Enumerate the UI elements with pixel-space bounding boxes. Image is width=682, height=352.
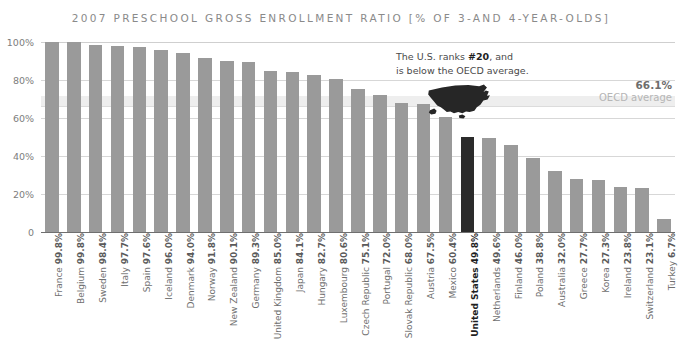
x-label-value: 99.8%: [76, 233, 86, 264]
x-label-finland: Finland 46.0%: [515, 233, 524, 299]
bar-switzerland[interactable]: [635, 188, 649, 232]
x-label-country: Japan: [295, 264, 305, 292]
x-label-france: France 99.8%: [55, 233, 64, 297]
x-label-country: Portugal: [382, 264, 392, 304]
x-label-value: 85.0%: [273, 233, 283, 264]
bar-germany[interactable]: [242, 62, 256, 232]
bar-new-zealand[interactable]: [220, 61, 234, 232]
x-label-value: 75.1%: [361, 233, 371, 264]
chart-root: 2007 PRESCHOOL GROSS ENROLLMENT RATIO [%…: [0, 0, 682, 352]
y-tick-100pct: 100%: [7, 37, 34, 48]
x-label-country: Germany: [251, 264, 261, 308]
x-label-greece: Greece 27.7%: [580, 233, 589, 299]
bar-mexico[interactable]: [439, 117, 453, 232]
bar-ireland[interactable]: [614, 187, 628, 232]
x-label-poland: Poland 38.8%: [536, 233, 545, 297]
x-label-country: Luxembourg: [339, 264, 349, 323]
x-label-united-kingdom: United Kingdom 85.0%: [274, 233, 283, 339]
bar-iceland[interactable]: [154, 50, 168, 232]
bar-italy[interactable]: [111, 46, 125, 232]
x-label-netherlands: Netherlands 49.6%: [493, 233, 502, 322]
annotation-line-1-pre: The U.S. ranks: [396, 51, 468, 62]
x-label-korea: Korea 27.3%: [602, 233, 611, 293]
bar-korea[interactable]: [592, 180, 606, 232]
x-label-mexico: Mexico 60.4%: [449, 233, 458, 299]
x-label-country: United States: [470, 264, 480, 337]
oecd-average-callout: 66.1% OECD average: [599, 79, 672, 103]
x-axis-tick-labels: France 99.8%Belgium 99.8%Sweden 98.4%Ita…: [41, 233, 675, 351]
x-label-spain: Spain 97.6%: [143, 233, 152, 292]
x-label-ireland: Ireland 23.8%: [624, 233, 633, 298]
bar-united-kingdom[interactable]: [264, 71, 278, 233]
bar-series: [41, 42, 675, 233]
plot-area: [41, 42, 675, 232]
bar-netherlands[interactable]: [482, 138, 496, 232]
bar-australia[interactable]: [548, 171, 562, 232]
x-label-country: Italy: [120, 264, 130, 286]
x-label-value: 97.7%: [120, 233, 130, 264]
x-label-united-states: United States 49.8%: [471, 233, 480, 337]
y-tick-20pct: 20%: [13, 189, 34, 200]
bar-greece[interactable]: [570, 179, 584, 232]
x-label-value: 49.8%: [470, 233, 480, 264]
chart-title: 2007 PRESCHOOL GROSS ENROLLMENT RATIO [%…: [0, 12, 682, 24]
x-label-australia: Australia 32.0%: [558, 233, 567, 307]
x-label-belgium: Belgium 99.8%: [77, 233, 86, 304]
bar-portugal[interactable]: [373, 95, 387, 232]
bar-norway[interactable]: [198, 58, 212, 232]
annotation-line-2: is below the OECD average.: [396, 64, 529, 78]
bar-sweden[interactable]: [89, 45, 103, 232]
x-label-country: Greece: [579, 264, 589, 299]
bar-turkey[interactable]: [657, 219, 671, 232]
bar-poland[interactable]: [526, 158, 540, 232]
x-label-japan: Japan 84.1%: [296, 233, 305, 292]
bar-hungary[interactable]: [307, 75, 321, 232]
x-label-value: 46.0%: [514, 233, 524, 264]
x-label-country: Mexico: [448, 264, 458, 298]
x-label-country: Switzerland: [645, 264, 655, 319]
x-label-value: 84.1%: [295, 233, 305, 264]
bar-belgium[interactable]: [67, 42, 81, 232]
x-label-value: 96.0%: [164, 233, 174, 264]
bar-japan[interactable]: [286, 72, 300, 232]
x-label-slovak-republic: Slovak Republic 68.0%: [405, 233, 414, 338]
x-label-value: 68.0%: [404, 233, 414, 264]
bar-slovak-republic[interactable]: [395, 103, 409, 232]
bar-denmark[interactable]: [176, 53, 190, 232]
x-label-portugal: Portugal 72.0%: [383, 233, 392, 304]
annotation-line-1: The U.S. ranks #20, and: [396, 50, 529, 64]
x-label-value: 97.6%: [142, 233, 152, 264]
x-label-hungary: Hungary 82.7%: [318, 233, 327, 306]
bar-united-states[interactable]: [461, 137, 475, 232]
x-label-value: 91.8%: [207, 233, 217, 264]
x-label-value: 89.3%: [251, 233, 261, 264]
x-label-czech-republic: Czech Republic 75.1%: [362, 233, 371, 336]
bar-czech-republic[interactable]: [351, 89, 365, 232]
x-label-value: 98.4%: [98, 233, 108, 264]
x-label-country: Iceland: [164, 264, 174, 299]
bar-finland[interactable]: [504, 145, 518, 232]
x-label-austria: Austria 67.5%: [427, 233, 436, 299]
y-tick-60pct: 60%: [13, 113, 34, 124]
x-label-value: 27.7%: [579, 233, 589, 264]
bar-france[interactable]: [45, 42, 59, 232]
x-label-value: 6.7%: [667, 233, 677, 258]
x-label-luxembourg: Luxembourg 80.6%: [340, 233, 349, 323]
x-label-value: 82.7%: [317, 233, 327, 264]
x-label-value: 23.8%: [623, 233, 633, 264]
bar-spain[interactable]: [133, 47, 147, 232]
x-label-germany: Germany 89.3%: [252, 233, 261, 308]
united-states-map-icon: [424, 82, 496, 124]
x-label-country: Slovak Republic: [404, 264, 414, 338]
x-label-country: United Kingdom: [273, 264, 283, 339]
x-label-country: Spain: [142, 264, 152, 292]
x-label-norway: Norway 91.8%: [208, 233, 217, 301]
x-label-country: Czech Republic: [361, 264, 371, 335]
x-label-sweden: Sweden 98.4%: [99, 233, 108, 303]
x-label-country: Turkey: [667, 258, 677, 290]
x-label-country: Netherlands: [492, 264, 502, 322]
bar-luxembourg[interactable]: [329, 79, 343, 232]
x-label-country: Hungary: [317, 264, 327, 305]
x-label-country: Korea: [601, 264, 611, 292]
x-label-country: New Zealand: [229, 264, 239, 326]
